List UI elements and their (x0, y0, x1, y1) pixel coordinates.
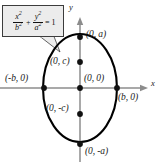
equation-plus-operator: + (26, 18, 31, 27)
y-axis-label: y (69, 3, 73, 12)
equation-fraction-x: x2 b2 (13, 12, 23, 32)
y-axis-arrowhead (77, 17, 83, 25)
point-dot-center (77, 85, 83, 91)
x-axis-label: x (151, 79, 155, 88)
equation-denominator-b: b2 (13, 22, 23, 33)
point-dot-vertex-left (41, 85, 47, 91)
point-dot-vertex-bottom (77, 141, 83, 147)
equation-callout-box: x2 b2 + y2 a2 = 1 (2, 5, 64, 37)
equation-denominator-a: a2 (33, 22, 43, 33)
label-vertex-right: (b, 0) (118, 93, 138, 103)
equation-equals-one: = 1 (45, 18, 56, 27)
point-dot-focus-upper (77, 59, 83, 65)
point-dot-focus-lower (77, 111, 83, 117)
exponent-num-x: 2 (19, 10, 22, 16)
label-center: (0, 0) (84, 74, 104, 84)
exponent-den-b: 2 (19, 21, 22, 27)
label-vertex-bottom: (0, -a) (85, 147, 108, 157)
exponent-num-y: 2 (38, 10, 41, 16)
ellipse-equation: x2 b2 + y2 a2 = 1 (3, 6, 65, 38)
point-dot-vertex-right (114, 85, 120, 91)
ellipse-figure: x2 b2 + y2 a2 = 1 y x (0, a) (0, c) (0, … (0, 0, 161, 164)
exponent-den-a: 2 (39, 21, 42, 27)
point-dot-vertex-top (77, 34, 83, 40)
equation-fraction-y: y2 a2 (33, 12, 43, 32)
label-vertex-top: (0, a) (86, 30, 106, 40)
equation-numerator-y: y2 (33, 12, 43, 22)
label-focus-upper: (0, c) (50, 57, 69, 67)
equation-numerator-x: x2 (14, 12, 24, 22)
x-axis-arrowhead (140, 85, 148, 91)
label-vertex-left: (-b, 0) (5, 74, 28, 84)
label-focus-lower: (0, -c) (46, 104, 69, 114)
